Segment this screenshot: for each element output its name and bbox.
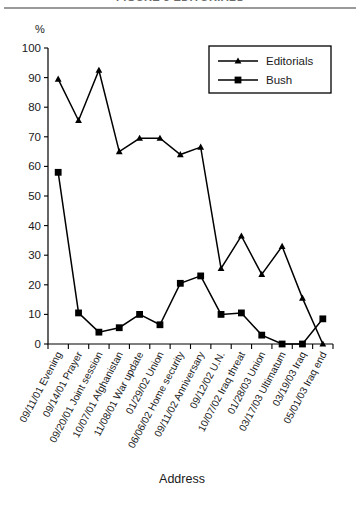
- y-axis-tick-label: 20: [28, 279, 41, 291]
- y-axis-tick-label: 90: [28, 72, 41, 84]
- data-point-marker: [197, 144, 204, 150]
- chart-series-group: [55, 67, 326, 348]
- y-axis-tick-label: 80: [28, 101, 41, 113]
- data-point-marker: [299, 295, 306, 301]
- x-axis-tick-labels: 09/11/01 Evening09/14/01 Prayer09/20/01 …: [17, 349, 328, 450]
- y-axis-tick-label: 30: [28, 249, 41, 261]
- data-point-marker: [95, 329, 102, 336]
- data-point-marker: [238, 232, 245, 238]
- y-axis-tick-label: 60: [28, 160, 41, 172]
- data-point-marker: [218, 311, 225, 318]
- data-point-marker: [238, 310, 245, 317]
- data-point-marker: [75, 310, 82, 317]
- data-point-marker: [258, 332, 265, 339]
- series-line: [58, 70, 323, 344]
- series-editorials: [55, 67, 326, 347]
- data-point-marker: [279, 243, 286, 249]
- data-point-marker: [299, 341, 306, 348]
- data-point-marker: [157, 321, 164, 328]
- y-axis-tick-label: 0: [35, 338, 41, 350]
- data-point-marker: [279, 341, 286, 348]
- data-point-marker: [55, 76, 62, 82]
- y-axis-tick-label: 50: [28, 190, 41, 202]
- data-point-marker: [116, 324, 123, 331]
- legend-label: Editorials: [266, 55, 314, 67]
- data-point-marker: [197, 273, 204, 280]
- data-point-marker: [116, 148, 123, 154]
- data-point-marker: [75, 117, 82, 123]
- y-axis-tick-label: 70: [28, 131, 41, 143]
- data-point-marker: [319, 315, 326, 322]
- series-line: [58, 172, 323, 344]
- data-point-marker: [136, 311, 143, 318]
- line-chart: 1009080706050403020100 09/11/01 Evening0…: [0, 0, 360, 512]
- data-point-marker: [55, 169, 62, 176]
- series-bush: [55, 169, 326, 347]
- data-point-marker: [177, 280, 184, 287]
- legend-label: Bush: [266, 74, 292, 86]
- chart-legend: EditorialsBush: [209, 46, 331, 93]
- y-axis-tick-label: 100: [22, 42, 41, 54]
- data-point-marker: [95, 67, 102, 73]
- y-axis-unit-label: %: [35, 23, 45, 35]
- y-axis-tick-label: 40: [28, 220, 41, 232]
- y-axis-tick-labels: 1009080706050403020100: [22, 42, 41, 350]
- y-axis-tick-label: 10: [28, 308, 41, 320]
- figure-container: FIGURE 3 EDITORIALS 10090807060504030201…: [0, 0, 360, 512]
- x-axis-title: Address: [159, 472, 205, 486]
- data-point-marker: [235, 77, 242, 84]
